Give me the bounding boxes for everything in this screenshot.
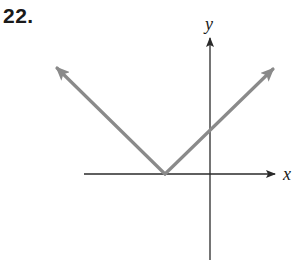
graph-left-arm [57,68,165,174]
x-axis-label: x [282,164,291,184]
graph-right-arm [165,69,273,174]
y-axis-label: y [203,14,213,34]
coordinate-graph: x y [0,0,308,273]
